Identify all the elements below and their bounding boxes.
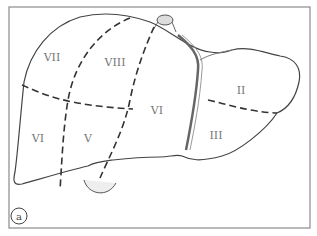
liver-drawing bbox=[0, 0, 317, 236]
segment-label-ii: II bbox=[237, 84, 246, 97]
segment-label-viii: VIII bbox=[105, 56, 126, 69]
segment-label-vi-center: VI bbox=[151, 104, 163, 117]
segment-label-vi-left: VI bbox=[32, 132, 44, 145]
liver-segments-diagram: VII VIII VI II VI V III a bbox=[0, 0, 317, 236]
segment-label-v: V bbox=[84, 132, 92, 145]
panel-label: a bbox=[16, 211, 22, 222]
vena-cava bbox=[157, 15, 173, 25]
segment-label-vii: VII bbox=[44, 51, 61, 64]
segment-label-iii: III bbox=[209, 129, 222, 142]
